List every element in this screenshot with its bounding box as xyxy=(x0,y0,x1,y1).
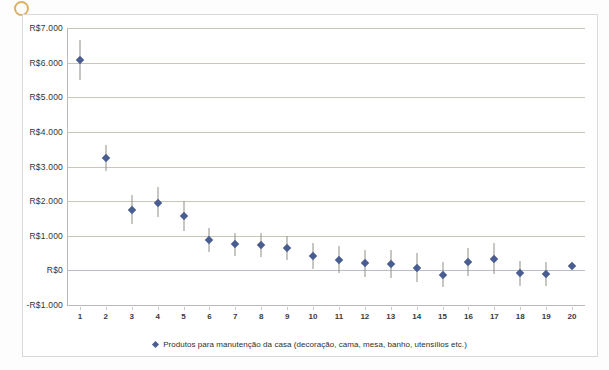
data-point[interactable] xyxy=(335,256,343,264)
x-axis-tick-mark xyxy=(572,307,573,310)
y-axis-labels: R$7.000R$6.000R$5.000R$4.000R$3.000R$2.0… xyxy=(0,28,63,305)
data-point[interactable] xyxy=(283,244,291,252)
x-axis-tick-mark xyxy=(494,307,495,310)
x-axis-tick-label: 4 xyxy=(155,312,159,321)
y-axis-tick-label: R$2.000 xyxy=(29,196,63,206)
data-point[interactable] xyxy=(257,241,265,249)
chart-page: R$7.000R$6.000R$5.000R$4.000R$3.000R$2.0… xyxy=(0,0,609,370)
data-point[interactable] xyxy=(490,254,498,262)
x-axis-tick-mark xyxy=(365,307,366,310)
x-axis-tick-label: 8 xyxy=(259,312,263,321)
data-point[interactable] xyxy=(179,212,187,220)
data-point[interactable] xyxy=(412,264,420,272)
x-axis-labels: 1234567891011121314151617181920 xyxy=(67,307,585,323)
data-point[interactable] xyxy=(568,262,576,270)
x-axis-tick-mark xyxy=(235,307,236,310)
x-axis-tick-label: 11 xyxy=(335,312,343,321)
x-axis-tick-mark xyxy=(158,307,159,310)
x-axis-tick-label: 2 xyxy=(104,312,108,321)
x-axis-tick-label: 19 xyxy=(542,312,551,321)
y-axis-tick-label: R$5.000 xyxy=(29,92,63,102)
x-axis-tick-label: 20 xyxy=(568,312,577,321)
x-axis-tick-label: 13 xyxy=(386,312,395,321)
x-axis-tick-mark xyxy=(106,307,107,310)
plot-area xyxy=(67,28,585,305)
x-axis-tick-mark xyxy=(391,307,392,310)
x-axis-tick-label: 7 xyxy=(233,312,237,321)
x-axis-tick-label: 9 xyxy=(285,312,289,321)
data-point[interactable] xyxy=(464,258,472,266)
data-point[interactable] xyxy=(153,198,161,206)
data-series xyxy=(67,28,585,305)
x-axis-tick-mark xyxy=(80,307,81,310)
data-point[interactable] xyxy=(102,154,110,162)
x-axis-tick-mark xyxy=(209,307,210,310)
chart-legend: Produtos para manutenção da casa (decora… xyxy=(22,340,598,349)
gridline xyxy=(67,305,585,306)
x-axis-tick-label: 10 xyxy=(309,312,318,321)
data-point[interactable] xyxy=(309,252,317,260)
x-axis-tick-label: 6 xyxy=(207,312,211,321)
x-axis-tick-mark xyxy=(132,307,133,310)
legend-diamond-icon xyxy=(152,341,159,348)
data-point[interactable] xyxy=(128,206,136,214)
data-point[interactable] xyxy=(205,236,213,244)
x-axis-tick-label: 14 xyxy=(412,312,421,321)
x-axis-tick-mark xyxy=(417,307,418,310)
data-point[interactable] xyxy=(542,270,550,278)
x-axis-tick-label: 5 xyxy=(181,312,185,321)
x-axis-tick-mark xyxy=(287,307,288,310)
data-point[interactable] xyxy=(516,269,524,277)
x-axis-tick-label: 12 xyxy=(360,312,369,321)
x-axis-tick-mark xyxy=(443,307,444,310)
y-axis-tick-label: -R$1.000 xyxy=(26,300,63,310)
x-axis-tick-label: 15 xyxy=(438,312,447,321)
y-axis-tick-label: R$0 xyxy=(47,265,63,275)
x-axis-tick-mark xyxy=(520,307,521,310)
data-point[interactable] xyxy=(361,259,369,267)
x-axis-tick-label: 18 xyxy=(516,312,525,321)
x-axis-tick-label: 3 xyxy=(130,312,134,321)
legend-label: Produtos para manutenção da casa (decora… xyxy=(163,340,467,349)
x-axis-tick-mark xyxy=(546,307,547,310)
x-axis-tick-label: 16 xyxy=(464,312,473,321)
y-axis-tick-label: R$1.000 xyxy=(29,231,63,241)
x-axis-tick-mark xyxy=(261,307,262,310)
x-axis-tick-label: 17 xyxy=(490,312,499,321)
data-point[interactable] xyxy=(76,56,84,64)
data-point[interactable] xyxy=(231,240,239,248)
x-axis-tick-mark xyxy=(313,307,314,310)
y-axis-tick-label: R$3.000 xyxy=(29,162,63,172)
y-axis-tick-label: R$6.000 xyxy=(29,58,63,68)
data-point[interactable] xyxy=(438,271,446,279)
x-axis-tick-label: 1 xyxy=(78,312,82,321)
y-axis-tick-label: R$7.000 xyxy=(29,23,63,33)
x-axis-tick-mark xyxy=(339,307,340,310)
x-axis-tick-mark xyxy=(184,307,185,310)
x-axis-tick-mark xyxy=(468,307,469,310)
data-point[interactable] xyxy=(387,260,395,268)
y-axis-tick-label: R$4.000 xyxy=(29,127,63,137)
